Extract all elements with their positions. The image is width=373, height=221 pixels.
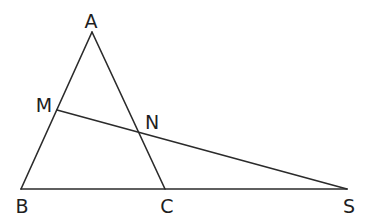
geometry-diagram: A M N B C S — [0, 0, 373, 221]
label-m: M — [36, 94, 52, 116]
point-labels: A M N B C S — [15, 10, 355, 217]
label-c: C — [160, 195, 173, 217]
label-s: S — [343, 195, 355, 217]
label-a: A — [85, 10, 98, 32]
label-b: B — [15, 195, 28, 217]
label-n: N — [145, 111, 159, 133]
segments — [21, 32, 347, 189]
segment-ms — [57, 110, 347, 189]
